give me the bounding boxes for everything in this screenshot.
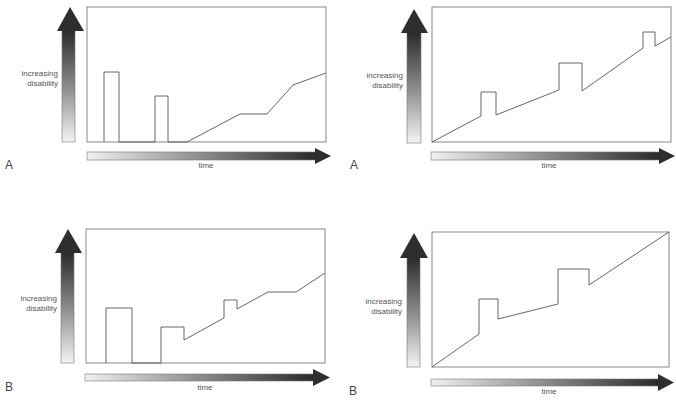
y-axis-label-line1: increasing <box>22 69 58 79</box>
plot-frame <box>432 7 671 142</box>
disability-arrow-icon <box>400 233 428 367</box>
y-axis-label: increasing disability <box>21 294 57 314</box>
panel-label: A <box>350 158 358 172</box>
plot-frame <box>432 232 669 367</box>
y-axis-label-line1: increasing <box>21 294 57 304</box>
panel-top-left <box>57 7 331 164</box>
disability-course-line <box>104 72 326 142</box>
y-axis-label: increasing disability <box>367 71 403 91</box>
plot-frame <box>86 229 325 363</box>
x-axis-label: time <box>176 161 236 170</box>
x-axis-label: time <box>519 387 579 396</box>
disability-course-line <box>106 273 325 363</box>
disability-course-line <box>432 32 671 142</box>
panel-bottom-left <box>55 229 330 386</box>
disability-course-line <box>432 232 669 367</box>
disability-arrow-icon <box>55 229 82 363</box>
y-axis-label-line2: disability <box>22 79 58 89</box>
panel-top-right <box>401 7 675 164</box>
x-axis-label: time <box>175 383 235 392</box>
y-axis-label: increasing disability <box>366 297 402 317</box>
panel-bottom-right <box>400 232 674 391</box>
disability-arrow-icon <box>401 9 428 143</box>
y-axis-label-line1: increasing <box>367 71 403 81</box>
panel-label: B <box>5 380 13 394</box>
plot-frame <box>87 7 326 142</box>
y-axis-label-line2: disability <box>366 307 402 317</box>
y-axis-label-line1: increasing <box>366 297 402 307</box>
panel-label: A <box>5 158 13 172</box>
figure-canvas <box>0 0 676 400</box>
y-axis-label-line2: disability <box>21 304 57 314</box>
y-axis-label-line2: disability <box>367 81 403 91</box>
disability-arrow-icon <box>57 7 84 142</box>
panel-label: B <box>349 384 357 398</box>
y-axis-label: increasing disability <box>22 69 58 89</box>
x-axis-label: time <box>519 161 579 170</box>
